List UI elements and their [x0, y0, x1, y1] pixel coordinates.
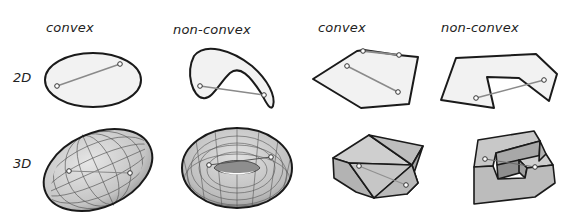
point-icon — [397, 53, 402, 58]
point-icon — [269, 155, 274, 160]
point-icon — [67, 169, 72, 174]
figure-3d-nonconvex-block — [474, 131, 555, 204]
point-icon — [542, 78, 547, 83]
figure-2d-convex-polygon — [313, 49, 418, 108]
figure-3d-nonconvex-torus — [182, 128, 292, 208]
figure-2d-nonconvex-polygon — [441, 54, 557, 108]
point-icon — [128, 171, 133, 176]
figure-2d-convex-ellipse — [45, 53, 141, 107]
figure-2d-nonconvex-crescent — [190, 49, 274, 108]
point-icon — [474, 96, 479, 101]
point-icon — [198, 84, 203, 89]
point-icon — [262, 93, 267, 98]
point-icon — [55, 84, 60, 89]
point-icon — [483, 157, 488, 162]
point-icon — [345, 64, 350, 69]
point-icon — [396, 90, 401, 95]
figure-3d-convex-polyhedron — [333, 135, 423, 198]
point-icon — [533, 165, 538, 170]
point-icon — [207, 163, 212, 168]
point-icon — [357, 164, 362, 169]
figure-3d-convex-ellipsoid — [27, 109, 169, 221]
point-icon — [118, 62, 123, 67]
point-icon — [361, 49, 366, 54]
point-icon — [404, 183, 409, 188]
diagram-canvas — [0, 0, 568, 221]
